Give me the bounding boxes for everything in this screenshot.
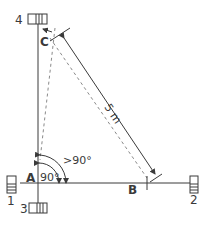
point-label-a: A (26, 171, 36, 185)
slash-mark-b (150, 174, 162, 182)
diagram-canvas: 4 1 3 2 A B C 90° >90° 5 m (0, 0, 210, 233)
point-label-c: C (40, 35, 49, 49)
angle-label-90: 90° (40, 171, 60, 184)
slash-mark-c (50, 28, 70, 41)
arrow-to-c (43, 29, 52, 32)
stake-label-4: 4 (15, 13, 23, 27)
stake-1 (7, 176, 16, 193)
stake-label-3: 3 (20, 202, 28, 216)
stake-3 (29, 203, 47, 213)
angle-label-obtuse: >90° (63, 154, 92, 167)
point-label-b: B (128, 183, 137, 197)
stake-2 (190, 176, 198, 193)
stake-4 (28, 14, 47, 24)
stake-label-2: 2 (190, 193, 198, 207)
stake-label-1: 1 (7, 194, 15, 208)
